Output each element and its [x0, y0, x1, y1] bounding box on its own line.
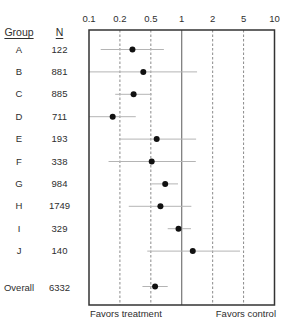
forest-plot-figure: 0.1 0.2 0.5 1 2 5 10 Group N A 122 B 881…	[0, 0, 286, 322]
favors-treatment-label: Favors treatment	[90, 308, 162, 320]
table-row: B 881	[0, 66, 86, 78]
table-row: H 1749	[0, 200, 86, 212]
n-column-header: N	[56, 26, 64, 39]
sample-size: 193	[52, 133, 68, 145]
table-row: I 329	[0, 223, 86, 235]
point-estimate-marker	[190, 248, 196, 254]
table-row: J 140	[0, 245, 86, 257]
overall-sample-size: 6332	[49, 282, 70, 294]
sample-size: 711	[52, 111, 67, 123]
x-tick-label: 0.2	[113, 13, 126, 25]
group-label: B	[16, 66, 22, 78]
point-estimate-marker	[129, 47, 135, 53]
group-label: C	[16, 88, 23, 100]
group-label: E	[16, 133, 22, 145]
sample-size: 140	[52, 245, 68, 257]
table-row: E 193	[0, 133, 86, 145]
sample-size: 122	[52, 44, 68, 56]
point-estimate-marker	[149, 159, 155, 165]
group-label: A	[16, 44, 22, 56]
point-estimate-marker	[157, 203, 163, 209]
group-label: D	[16, 111, 23, 123]
table-row: F 338	[0, 156, 86, 168]
group-label: J	[17, 245, 22, 257]
sample-size: 984	[52, 178, 68, 190]
group-label: H	[16, 200, 23, 212]
group-label: I	[18, 223, 21, 235]
point-estimate-marker	[131, 91, 137, 97]
point-estimate-marker	[162, 181, 168, 187]
x-tick-label: 2	[210, 13, 215, 25]
point-estimate-marker	[110, 114, 116, 120]
sample-size: 329	[52, 223, 68, 235]
point-estimate-marker	[140, 69, 146, 75]
favors-control-label: Favors control	[216, 308, 276, 320]
table-row: A 122	[0, 44, 86, 56]
table-row: G 984	[0, 178, 86, 190]
sample-size: 1749	[49, 200, 70, 212]
group-label: G	[15, 178, 22, 190]
sample-size: 881	[52, 66, 68, 78]
x-tick-label: 10	[269, 13, 280, 25]
sample-size: 885	[52, 88, 68, 100]
overall-label: Overall	[4, 282, 34, 294]
point-estimate-marker	[154, 136, 160, 142]
point-estimate-marker	[152, 284, 158, 290]
point-estimate-marker	[176, 226, 182, 232]
x-tick-label: 0.5	[144, 13, 157, 25]
group-column-header: Group	[4, 26, 33, 39]
table-row: D 711	[0, 111, 86, 123]
x-tick-label: 0.1	[82, 13, 95, 25]
x-tick-label: 5	[241, 13, 246, 25]
group-label: F	[16, 156, 22, 168]
overall-row: Overall 6332	[0, 282, 86, 294]
table-row: C 885	[0, 88, 86, 100]
sample-size: 338	[52, 156, 68, 168]
x-tick-label: 1	[179, 13, 184, 25]
